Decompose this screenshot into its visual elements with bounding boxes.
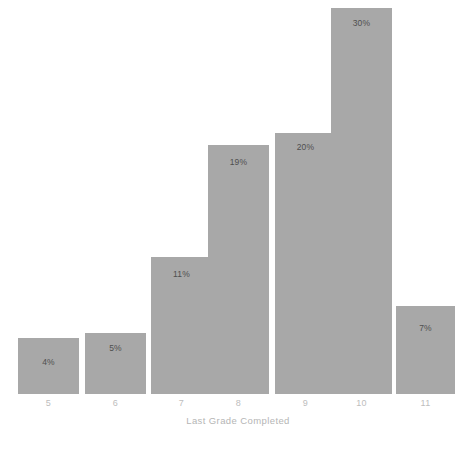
bar-grade-7: 11% [151,257,212,394]
bar-grade-8: 19% [208,145,269,394]
bar-grade-11: 7% [396,306,455,394]
bar-grade-10: 30% [331,8,392,394]
plot-area: 4% 5% 11% 19% 20% 30% 7% [0,0,476,394]
x-tick-label-11: 11 [396,398,455,408]
bar-value-label: 5% [85,343,146,353]
x-tick-label-10: 10 [331,398,392,408]
x-tick-label-7: 7 [151,398,212,408]
bar-value-label: 4% [18,357,79,367]
x-tick-label-8: 8 [208,398,269,408]
x-axis-title: Last Grade Completed [0,415,476,426]
x-tick-label-9: 9 [275,398,336,408]
bar-grade-5: 4% [18,338,79,394]
bar-chart: 4% 5% 11% 19% 20% 30% 7% 5 6 7 8 9 10 11… [0,0,476,451]
bar-value-label: 7% [396,323,455,333]
bar-value-label: 11% [151,269,212,279]
bar-value-label: 20% [275,142,336,152]
bar-grade-9: 20% [275,133,336,394]
bar-grade-6: 5% [85,333,146,394]
bar-value-label: 30% [331,18,392,28]
x-tick-label-6: 6 [85,398,146,408]
bar-value-label: 19% [208,157,269,167]
x-tick-label-5: 5 [18,398,79,408]
